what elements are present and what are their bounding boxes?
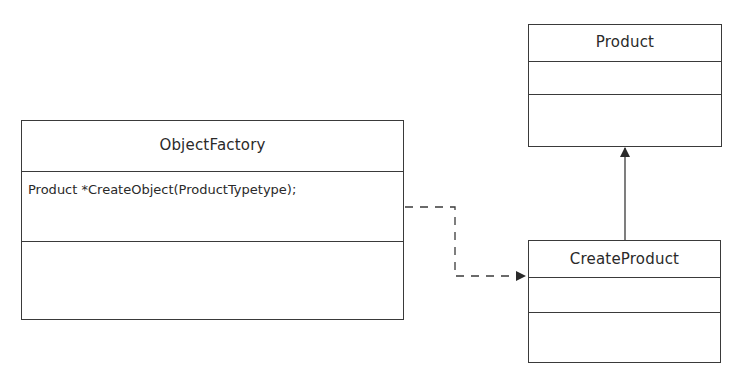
methods-section [529,312,720,362]
method-create-object: Product *CreateObject(ProductTypetype); [22,172,403,197]
attributes-section [529,277,720,312]
class-name-section: Product [529,25,721,61]
class-name: CreateProduct [529,241,720,277]
class-create-product[interactable]: CreateProduct [528,240,721,363]
class-name: ObjectFactory [22,121,403,169]
class-object-factory[interactable]: ObjectFactory Product *CreateObject(Prod… [21,120,404,320]
extra-section [22,241,403,319]
class-name-section: ObjectFactory [22,121,403,171]
methods-section [529,94,721,146]
class-name: Product [529,25,721,59]
class-product[interactable]: Product [528,24,722,147]
methods-section: Product *CreateObject(ProductTypetype); [22,171,403,241]
class-name-section: CreateProduct [529,241,720,277]
attributes-section [529,61,721,94]
dependency-arrow [405,207,525,276]
